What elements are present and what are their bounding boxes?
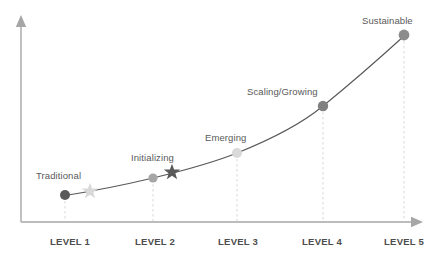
data-point-emerging[interactable] — [232, 148, 242, 158]
data-point-scaling-growing[interactable] — [318, 101, 328, 111]
point-label-traditional: Traditional — [36, 170, 81, 181]
point-label-sustainable: Sustainable — [362, 15, 413, 26]
maturity-curve-line — [62, 36, 404, 196]
point-label-initializing: Initializing — [131, 152, 174, 163]
x-tick-label-level-1: LEVEL 1 — [30, 236, 110, 247]
x-tick-label-level-3: LEVEL 3 — [198, 236, 278, 247]
x-tick-label-level-5: LEVEL 5 — [364, 236, 438, 247]
point-label-scaling-growing: Scaling/Growing — [247, 86, 318, 97]
x-tick-label-level-4: LEVEL 4 — [282, 236, 362, 247]
maturity-curve-chart: Traditional Initializing Emerging Scalin… — [0, 0, 438, 261]
dark-star-icon — [164, 164, 180, 180]
light-star-icon — [82, 183, 98, 199]
y-axis-arrow-icon — [16, 15, 26, 27]
point-label-emerging: Emerging — [205, 132, 246, 143]
data-point-initializing[interactable] — [148, 173, 157, 182]
y-axis — [16, 15, 26, 222]
data-point-traditional[interactable] — [60, 190, 70, 200]
chart-canvas — [0, 0, 438, 261]
data-point-sustainable[interactable] — [399, 30, 410, 41]
x-axis-arrow-icon — [411, 217, 423, 227]
droplines-group — [65, 36, 404, 221]
data-point-markers-group — [60, 30, 409, 200]
star-markers-group — [82, 164, 180, 199]
x-tick-label-level-2: LEVEL 2 — [115, 236, 195, 247]
x-axis — [21, 217, 423, 227]
